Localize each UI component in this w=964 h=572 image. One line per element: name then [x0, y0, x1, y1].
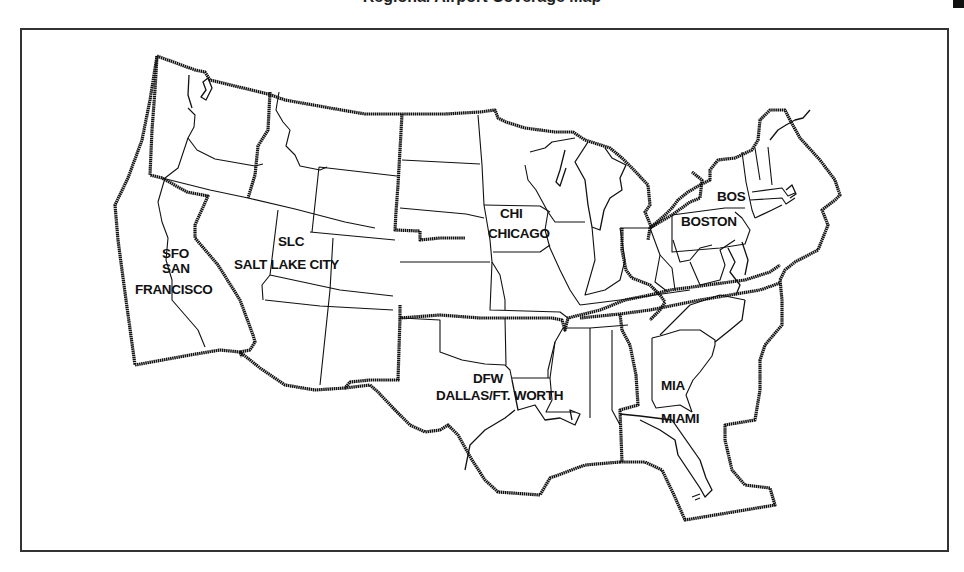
- label-chi-name: CHICAGO: [488, 226, 550, 241]
- label-sfo-name2: FRANCISCO: [135, 282, 213, 297]
- label-mia-name: MIAMI: [661, 411, 699, 426]
- label-sfo-name: SAN: [162, 261, 190, 276]
- label-mia-code: MIA: [661, 378, 685, 393]
- label-bos-name: BOSTON: [681, 214, 737, 229]
- state-borders: [158, 75, 810, 500]
- label-slc-code: SLC: [278, 234, 305, 249]
- label-chi-code: CHI: [500, 206, 522, 221]
- label-dfw-code: DFW: [473, 371, 503, 386]
- us-region-map: SFO SAN FRANCISCO SLC SALT LAKE CITY CHI…: [0, 0, 964, 572]
- label-slc-name: SALT LAKE CITY: [234, 257, 339, 272]
- region-borders: [115, 56, 840, 520]
- label-sfo-code: SFO: [162, 246, 189, 261]
- label-dfw-name: DALLAS/FT. WORTH: [436, 388, 563, 403]
- label-bos-code: BOS: [717, 189, 746, 204]
